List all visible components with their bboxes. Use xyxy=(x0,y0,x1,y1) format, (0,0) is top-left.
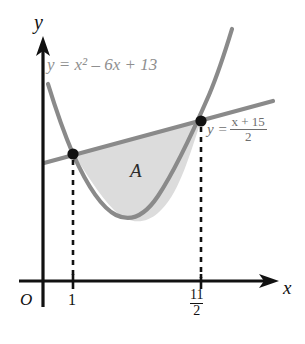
line-equation-label: y = x + 15 2 xyxy=(207,115,267,143)
intersection-point-right xyxy=(195,115,206,126)
parabola-equation-label: y = x² – 6x + 13 xyxy=(47,56,157,73)
line-equation-denominator: 2 xyxy=(230,129,267,144)
origin-label: O xyxy=(20,291,32,308)
y-axis-label: y xyxy=(34,12,43,32)
math-figure xyxy=(0,0,305,344)
intersection-point-left xyxy=(67,148,78,159)
tick-label-1: 1 xyxy=(68,292,76,308)
tick-label-2-denominator: 2 xyxy=(190,303,203,319)
tick-label-2-numerator: 11 xyxy=(190,288,203,303)
line-equation-lhs: y = xyxy=(207,122,228,137)
region-label-a: A xyxy=(130,161,142,180)
line-equation-numerator: x + 15 xyxy=(230,115,267,129)
x-axis-label: x xyxy=(283,278,291,297)
tick-label-2: 11 2 xyxy=(190,288,203,318)
line-equation-fraction: x + 15 2 xyxy=(230,115,267,143)
